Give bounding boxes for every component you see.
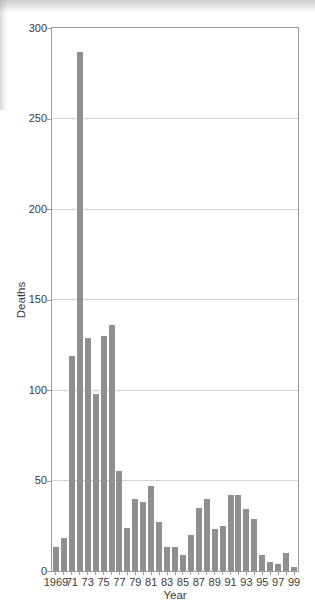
bar-1990 (220, 526, 226, 571)
y-tick-label-0: 0 (14, 565, 47, 578)
x-tick-mark-1991 (230, 572, 231, 575)
bar-1989 (212, 529, 218, 571)
x-tick-label-75: 75 (97, 576, 109, 589)
x-tick-mark-1996 (270, 572, 271, 575)
bar-1997 (275, 564, 281, 571)
bar-1995 (259, 555, 265, 571)
bar-1980 (140, 502, 146, 571)
bar-1994 (251, 519, 257, 571)
bar-1986 (188, 535, 194, 571)
page-left-shadow (0, 0, 7, 110)
bar-1999 (291, 567, 297, 571)
x-tick-mark-1971 (71, 572, 72, 575)
chart-figure: Deaths 050100150200250300 19697173757779… (0, 0, 315, 604)
bar-1983 (164, 547, 170, 571)
bar-1977 (116, 471, 122, 571)
x-tick-label-83: 83 (161, 576, 173, 589)
y-tick-mark-150 (47, 300, 51, 301)
x-tick-label-81: 81 (145, 576, 157, 589)
x-tick-mark-1979 (135, 572, 136, 575)
x-tick-mark-1999 (294, 572, 295, 575)
x-tick-mark-1981 (151, 572, 152, 575)
x-tick-mark-1974 (95, 572, 96, 575)
bar-1984 (172, 547, 178, 571)
x-tick-mark-1998 (286, 572, 287, 575)
bar-1991 (228, 495, 234, 571)
x-tick-mark-1989 (214, 572, 215, 575)
bar-1993 (243, 509, 249, 571)
x-tick-mark-1977 (119, 572, 120, 575)
x-tick-label-95: 95 (256, 576, 268, 589)
x-tick-mark-1997 (278, 572, 279, 575)
x-tick-label-91: 91 (224, 576, 236, 589)
bar-1982 (156, 522, 162, 571)
gridline-y-250 (52, 118, 298, 119)
plot-area (51, 27, 299, 572)
x-tick-label-87: 87 (193, 576, 205, 589)
bar-1975 (101, 336, 107, 571)
bar-1996 (267, 562, 273, 571)
x-tick-label-77: 77 (113, 576, 125, 589)
bar-1981 (148, 486, 154, 571)
bar-1969 (53, 547, 59, 571)
x-tick-mark-1982 (159, 572, 160, 575)
x-tick-label-85: 85 (177, 576, 189, 589)
x-tick-mark-1992 (238, 572, 239, 575)
y-tick-mark-100 (47, 390, 51, 391)
x-tick-label-1969: 1969 (44, 576, 68, 589)
x-tick-mark-1973 (87, 572, 88, 575)
x-tick-mark-1980 (143, 572, 144, 575)
bar-1979 (132, 499, 138, 571)
x-tick-mark-1969 (55, 572, 56, 575)
bar-1987 (196, 508, 202, 571)
bar-1976 (109, 325, 115, 571)
x-tick-label-99: 99 (288, 576, 300, 589)
gridline-y-150 (52, 299, 298, 300)
bar-1974 (93, 394, 99, 571)
y-tick-label-150: 150 (14, 293, 47, 306)
bar-1970 (61, 538, 67, 571)
x-tick-label-97: 97 (272, 576, 284, 589)
bar-1971 (69, 356, 75, 571)
y-tick-mark-300 (47, 28, 51, 29)
gridline-y-200 (52, 209, 298, 210)
x-tick-mark-1983 (167, 572, 168, 575)
bar-1998 (283, 553, 289, 571)
x-tick-mark-1988 (206, 572, 207, 575)
page-top-shadow (0, 0, 315, 13)
bar-1985 (180, 555, 186, 571)
y-tick-label-300: 300 (14, 22, 47, 35)
x-tick-label-73: 73 (82, 576, 94, 589)
bar-1972 (77, 52, 83, 571)
y-tick-label-200: 200 (14, 203, 47, 216)
x-tick-mark-1994 (254, 572, 255, 575)
x-tick-label-89: 89 (209, 576, 221, 589)
y-tick-label-100: 100 (14, 384, 47, 397)
x-tick-label-79: 79 (129, 576, 141, 589)
y-tick-mark-50 (47, 481, 51, 482)
x-tick-mark-1970 (63, 572, 64, 575)
x-tick-mark-1978 (127, 572, 128, 575)
x-tick-mark-1975 (103, 572, 104, 575)
y-tick-mark-0 (47, 571, 51, 572)
bar-1973 (85, 338, 91, 571)
y-tick-mark-250 (47, 119, 51, 120)
bar-1978 (124, 528, 130, 571)
x-tick-mark-1986 (190, 572, 191, 575)
x-tick-mark-1995 (262, 572, 263, 575)
x-tick-label-71: 71 (66, 576, 78, 589)
bar-1992 (235, 495, 241, 571)
y-tick-label-50: 50 (14, 474, 47, 487)
x-tick-label-93: 93 (240, 576, 252, 589)
x-tick-mark-1984 (175, 572, 176, 575)
x-tick-mark-1985 (182, 572, 183, 575)
x-tick-mark-1987 (198, 572, 199, 575)
y-tick-label-250: 250 (14, 112, 47, 125)
x-tick-mark-1972 (79, 572, 80, 575)
x-tick-mark-1976 (111, 572, 112, 575)
bar-1988 (204, 499, 210, 571)
y-tick-mark-200 (47, 209, 51, 210)
x-tick-mark-1993 (246, 572, 247, 575)
x-tick-mark-1990 (222, 572, 223, 575)
x-axis-title: Year (51, 589, 299, 601)
